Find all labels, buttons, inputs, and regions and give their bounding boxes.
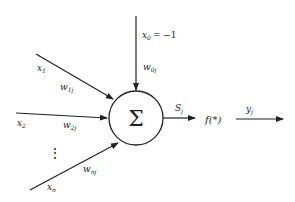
bias-input-label: x0= −1 — [142, 30, 177, 41]
sigma-symbol: Σ — [128, 106, 144, 131]
weight-w1j-label: w1j — [60, 82, 74, 94]
summation-node: Σ — [109, 91, 163, 145]
weight-wnj-label: wnj — [83, 164, 97, 176]
neuron-diagram: Σ x0= −1 w0j x1 w1j x2 w2j ⋮ — [0, 0, 295, 202]
input-x1-arrow: x1 w1j — [36, 54, 113, 99]
bias-input-arrow: x0= −1 w0j — [136, 16, 177, 90]
input-x2-arrow: x2 w2j — [16, 113, 107, 132]
sum-output-arrow: Sj — [163, 103, 195, 118]
input-x1-label: x1 — [37, 63, 46, 74]
input-xn-arrow: xn wnj — [30, 143, 118, 193]
ellipsis-vertical: ⋮ — [48, 145, 62, 161]
output-arrow: yj — [236, 104, 283, 119]
input-x2-label: x2 — [17, 118, 26, 129]
bias-weight-label: w0j — [143, 62, 157, 74]
activation-function-label: f(*) — [204, 114, 222, 125]
output-label: yj — [245, 104, 253, 116]
input-xn-label: xn — [47, 182, 56, 193]
weight-w2j-label: w2j — [63, 120, 77, 132]
sum-output-label: Sj — [175, 103, 183, 115]
